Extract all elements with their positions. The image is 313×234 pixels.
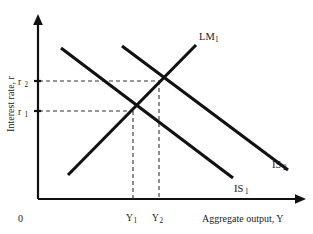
- x-tick-label-y2: Y 2: [152, 213, 164, 225]
- x-tick-label-y1: Y 1: [126, 213, 138, 225]
- curve-lm1: [68, 45, 196, 175]
- x-axis-label: Aggregate output, Y: [202, 213, 284, 224]
- curve-label-is1: IS 1: [234, 183, 249, 196]
- y-axis: [33, 14, 43, 199]
- y-tick-label-r2: r 2: [18, 77, 29, 89]
- y-tick-label-r2-sub: 2: [25, 81, 29, 89]
- y-tick-label-r1: r 1: [18, 107, 29, 119]
- curve-label-is1-base: IS: [234, 183, 243, 194]
- origin-label: 0: [18, 213, 23, 224]
- curve-label-is2-base: IS: [272, 159, 281, 170]
- x-tick-label-y2-sub: 2: [160, 217, 164, 225]
- curve-is1: [61, 48, 233, 178]
- curve-label-is1-sub: 1: [245, 188, 249, 196]
- x-axis-arrow-icon: [295, 194, 306, 204]
- curve-is2: [122, 46, 288, 170]
- curve-label-lm1-sub: 1: [215, 36, 219, 44]
- x-axis: [38, 194, 306, 204]
- y-tick-label-r1-sub: 1: [25, 111, 29, 119]
- curve-label-lm1-base: LM: [199, 31, 215, 42]
- is-lm-diagram: Interest rate, r Aggregate output, Y 0 r…: [0, 0, 313, 234]
- chart-canvas: Interest rate, r Aggregate output, Y 0 r…: [0, 0, 313, 234]
- y-tick-label-r1-base: r: [18, 107, 22, 117]
- x-tick-label-y2-base: Y: [152, 213, 159, 223]
- curve-label-is2-sub: 2: [283, 164, 287, 172]
- y-axis-label: Interest rate, r: [5, 75, 16, 131]
- x-tick-label-y1-sub: 1: [134, 217, 138, 225]
- curve-label-is2: IS 2: [272, 159, 287, 172]
- y-tick-label-r2-base: r: [18, 77, 22, 87]
- curve-label-lm1: LM 1: [199, 31, 219, 44]
- x-tick-label-y1-base: Y: [126, 213, 133, 223]
- y-axis-arrow-icon: [33, 14, 43, 25]
